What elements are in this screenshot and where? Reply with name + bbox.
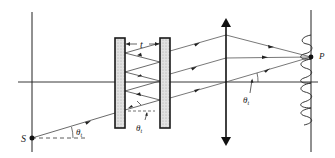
ray-arrow: [194, 88, 200, 92]
ray-arrow: [268, 45, 274, 49]
gap-arrow-right-icon: [155, 42, 159, 46]
angle-label-cavity: θt: [136, 123, 142, 134]
cavity-ray-zigzag: [125, 43, 160, 110]
ray-arrow: [136, 92, 141, 96]
fabry-perot-diagram: t P S θt θt θt: [0, 0, 335, 158]
point-p-label: P: [318, 51, 325, 61]
gap-label: t: [140, 39, 143, 50]
lens-bottom-arrow-icon: [221, 137, 231, 146]
transmitted-ray-2: [170, 58, 226, 74]
plate-1: [115, 38, 125, 128]
fringe-pattern: [301, 35, 312, 125]
ray-arrow: [145, 112, 148, 116]
ray-arrow: [137, 74, 142, 77]
lens-top-arrow-icon: [221, 18, 231, 27]
angle-arc-source: [72, 127, 74, 138]
ray-arrow: [262, 56, 268, 60]
angle-label-source: θt: [76, 127, 82, 138]
plate-2: [160, 38, 170, 128]
gap-arrow-left-icon: [126, 42, 130, 46]
angle-arc-lens: [257, 73, 258, 82]
ray-arrow: [251, 79, 254, 83]
incident-ray: [32, 113, 115, 138]
point-p: [309, 55, 314, 60]
source-label: S: [21, 133, 26, 144]
angle-pointer: [137, 101, 141, 105]
source-point: [30, 136, 35, 141]
focused-ray-2: [226, 57, 311, 58]
angle-label-lens: θt: [243, 95, 249, 106]
